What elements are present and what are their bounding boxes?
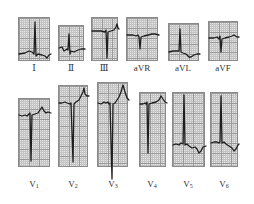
lead-label-aVL: aVL [163,63,203,73]
lead-label-III: Ⅲ [84,63,124,73]
lead-label-I: Ⅰ [14,63,54,73]
ecg-trace-lead-V2 [59,86,89,168]
ecg-trace-lead-aVR [127,18,159,62]
lead-label-V6: V6 [204,179,244,191]
ecg-strip-lead-aVF [208,21,238,61]
lead-label-V3: V3 [93,179,133,191]
ecg-trace-lead-I [19,18,51,62]
ecg-strip-lead-III [91,17,118,61]
ecg-strip-lead-V2 [58,85,88,167]
ecg-strip-lead-V6 [210,92,238,167]
lead-label-V4: V4 [132,179,172,191]
ecg-strip-lead-V5 [172,92,205,167]
ecg-trace-lead-V5 [173,93,206,168]
ecg-strip-lead-V4 [139,92,166,167]
ecg-trace-lead-V6 [211,93,239,168]
ecg-trace-lead-V3 [98,83,129,168]
ecg-strip-lead-V1 [18,98,50,167]
ecg-strip-lead-II [58,25,84,61]
ecg-trace-lead-aVF [209,22,239,62]
lead-label-V2: V2 [53,179,93,191]
ecg-strip-lead-I [18,17,50,61]
lead-label-aVR: aVR [122,63,162,73]
ecg-strip-lead-V3 [97,82,128,167]
ecg-trace-lead-III [92,18,119,62]
lead-label-aVF: aVF [203,63,243,73]
ecg-trace-lead-V4 [140,93,167,168]
ecg-trace-lead-V1 [19,99,51,168]
ecg-strip-lead-aVR [126,17,158,61]
lead-label-V5: V5 [168,179,208,191]
ecg-strip-lead-aVL [168,23,199,61]
ecg-trace-lead-aVL [169,24,200,62]
ecg-trace-lead-II [59,26,85,62]
lead-label-V1: V1 [14,179,54,191]
